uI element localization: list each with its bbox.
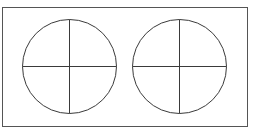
right-circle-group xyxy=(133,20,227,114)
left-circle-group xyxy=(23,20,117,114)
diagram-canvas xyxy=(0,0,261,129)
